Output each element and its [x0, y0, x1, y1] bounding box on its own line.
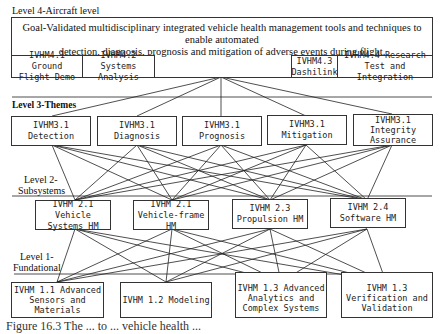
box-line: Software HM [340, 213, 396, 224]
box-line: IVHM 1.1 Advanced [14, 285, 101, 295]
box-line: IVHM 1.3 Advanced [238, 283, 325, 293]
box-line: Complex Systems [243, 303, 320, 313]
box-line: Detection [28, 131, 74, 142]
level1-label-line2: Fundational [13, 263, 61, 273]
level4-box-research-test: IVHM4.4 Research Test and Integration [337, 55, 433, 78]
level2-box-vehicle-systems: IVHM 2.1 Vehicle Systems HM [35, 200, 111, 230]
level3-box-diagnosis: IVHM3.1 Diagnosis [97, 116, 177, 146]
box-line: Systems HM [47, 221, 98, 232]
level3-box-integrity-assurance: IVHM3.1 Integrity Assurance [353, 114, 433, 146]
level2-box-propulsion: IVHM 2.3 Propulsion HM [232, 199, 308, 229]
box-line: Validation [361, 303, 412, 313]
level2-box-vehicle-frame: IVHM 2.1 Vehicle-frame HM [133, 200, 209, 230]
level4-label: Level 4-Aircraft level [12, 6, 99, 16]
box-line: IVHM 2.1 Vehicle [36, 199, 110, 221]
level4-box-dashilink: IVHM4.3 Dashilink [291, 55, 338, 78]
level1-label-line1: Level 1- [20, 252, 54, 262]
box-line: Sensors and [29, 295, 85, 305]
box-line: Dashilink [291, 67, 337, 78]
box-line: IVHM 1.2 Modeling [123, 295, 210, 306]
box-line: Mitigation [281, 130, 332, 141]
box-line: IVHM3.1 [289, 119, 325, 130]
level3-box-prognosis: IVHM3.1 Prognosis [182, 116, 262, 146]
level2-box-software: IVHM 2.4 Software HM [330, 198, 406, 228]
level3-box-mitigation: IVHM3.1 Mitigation [267, 115, 347, 145]
level1-box-analytics-complex: IVHM 1.3 Advanced Analytics and Complex … [235, 272, 327, 318]
level2-label-line2: Subsystems [18, 186, 65, 196]
level1-box-verification-validation: IVHM 1.3 Verification and Validation [341, 272, 433, 318]
box-line: Integrity [370, 125, 416, 135]
box-line: Analysis [98, 72, 139, 83]
level1-box-sensors-materials: IVHM 1.1 Advanced Sensors and Materials [11, 282, 104, 318]
box-line: IVHM3.1 [375, 115, 411, 125]
box-line: IVHM 1.3 [367, 283, 408, 293]
box-line: IVHM4.2 Systems [83, 50, 154, 72]
goal-line-1: Goal-Validated multidisciplinary integra… [12, 22, 432, 46]
box-line: Test and Integration [338, 61, 432, 83]
level4-box-systems-analysis: IVHM4.2 Systems Analysis [82, 55, 155, 78]
box-line: IVHM3.1 [119, 120, 155, 131]
box-line: Analytics and [248, 293, 315, 303]
box-line: IVHM4.1 Ground [12, 50, 82, 72]
box-line: IVHM 2.4 [348, 202, 389, 213]
box-line: Materials [34, 305, 80, 315]
box-line: IVHM 2.3 [250, 203, 291, 214]
box-line: Diagnosis [114, 131, 160, 142]
box-line: Prognosis [199, 131, 245, 142]
box-line: IVHM4.3 [297, 56, 333, 67]
level1-box-modeling: IVHM 1.2 Modeling [120, 282, 212, 318]
figure-caption: Figure 16.3 The ... to ... vehicle healt… [6, 319, 201, 334]
box-line: Flight Demo [19, 72, 75, 83]
level3-box-detection: IVHM3.1 Detection [11, 116, 91, 146]
box-line: IVHM 2.1 [151, 199, 192, 210]
level4-box-ground-flight-demo: IVHM4.1 Ground Flight Demo [11, 55, 83, 78]
level2-label-line1: Level 2- [24, 175, 58, 185]
box-line: IVHM3.1 [33, 120, 69, 131]
box-line: IVHM4.4 Research [344, 50, 426, 61]
box-line: Verification and [346, 293, 428, 303]
level3-label: Level 3-Themes [12, 100, 76, 110]
box-line: IVHM3.1 [204, 120, 240, 131]
box-line: Assurance [370, 135, 416, 145]
box-line: Propulsion HM [237, 214, 304, 225]
box-line: Vehicle-frame HM [134, 210, 208, 232]
